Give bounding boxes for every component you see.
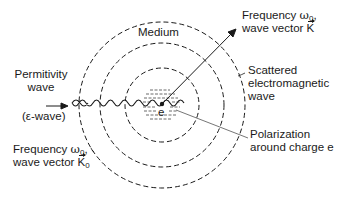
omega-symbol: ω: [300, 8, 309, 22]
vector-k-symbol: K: [307, 22, 315, 35]
scattered-line1: Scattered: [248, 64, 329, 77]
omega-symbol: ω: [71, 142, 80, 156]
scattered-line3: wave: [248, 90, 329, 103]
vector-k-subscript: 0: [85, 161, 89, 170]
scattered-vector-label: Frequency ω0, wave vector K: [242, 9, 317, 35]
polarization-line2: around charge e: [250, 141, 334, 154]
medium-text: Medium: [138, 26, 179, 38]
permittivity-wave-line: [72, 100, 184, 106]
incident-wave-label: Frequency ω0, wave vector K0: [13, 143, 90, 169]
charge-symbol: e: [158, 106, 164, 118]
scattered-line2: electromagnetic: [248, 77, 329, 90]
incident-wave-vector: wave vector K0: [13, 156, 90, 169]
scattered-wave-vector: wave vector K: [242, 22, 317, 35]
permittivity-line1: Permitivity: [11, 68, 71, 81]
incident-freq-prefix: Frequency: [13, 143, 71, 155]
charge-label: e: [158, 106, 164, 119]
scattered-frequency: Frequency ω0,: [242, 9, 317, 22]
epsilon-wave-label: (ε-wave): [22, 110, 65, 123]
permittivity-line2: wave: [11, 81, 71, 94]
medium-label: Medium: [138, 26, 179, 39]
incident-vector-prefix: wave vector: [13, 156, 78, 168]
scattered-vector-prefix: wave vector: [242, 22, 307, 34]
vector-k-symbol: K: [78, 156, 86, 169]
polarization-line1: Polarization: [250, 128, 334, 141]
scattered-wave-label: Scattered electromagnetic wave: [248, 64, 329, 103]
incident-arrow-icon: [46, 103, 68, 109]
polarization-leader-line: [176, 110, 248, 138]
scattering-diagram: Medium Permitivity wave (ε-wave) e Frequ…: [0, 0, 348, 197]
scattered-freq-prefix: Frequency: [242, 9, 300, 21]
permittivity-wave-label: Permitivity wave: [11, 68, 71, 94]
polarization-label: Polarization around charge e: [250, 128, 334, 154]
scattered-vector-arrow-icon: [162, 29, 236, 104]
epsilon-wave-text: (ε-wave): [22, 110, 65, 122]
